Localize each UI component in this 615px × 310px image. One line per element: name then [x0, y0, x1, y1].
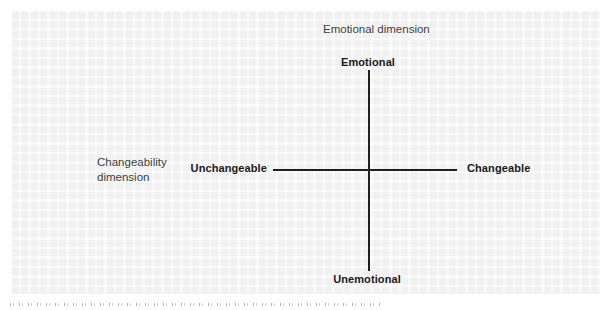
cropped-caption-top-edge	[10, 303, 382, 306]
pole-label-unchangeable: Unchangeable	[191, 162, 267, 174]
vertical-dimension-title: Emotional dimension	[323, 22, 430, 37]
horizontal-dimension-title-line2: dimension	[97, 170, 167, 185]
horizontal-dimension-title: Changeability dimension	[97, 155, 167, 184]
pole-label-changeable: Changeable	[467, 162, 530, 174]
pole-label-emotional: Emotional	[341, 56, 395, 68]
pole-label-unemotional: Unemotional	[333, 273, 401, 285]
horizontal-axis-line	[273, 169, 457, 171]
diagram-page: Emotional dimension Changeability dimens…	[0, 0, 615, 310]
paper-texture	[12, 10, 600, 294]
horizontal-dimension-title-line1: Changeability	[97, 155, 167, 170]
